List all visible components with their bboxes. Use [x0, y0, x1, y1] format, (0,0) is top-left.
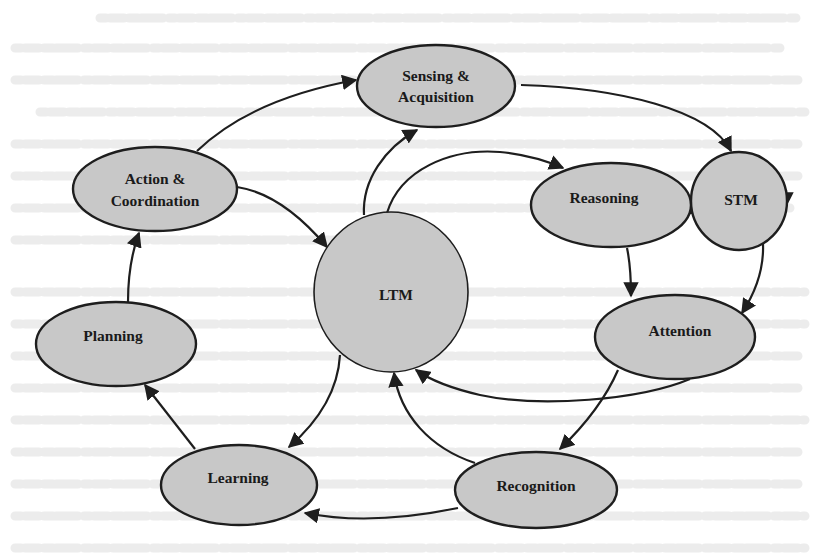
node-label: Action & [125, 170, 186, 187]
node-label: Learning [207, 469, 268, 486]
edge-attention-to-recognition [560, 370, 618, 449]
node-recognition: Recognition [455, 452, 617, 528]
node-label: Coordination [111, 192, 200, 209]
node-label: Sensing & [402, 67, 470, 84]
cognitive-process-diagram: Sensing & Acquisition Action & Coordinat… [0, 0, 827, 557]
node-sensing-acquisition: Sensing & Acquisition [357, 45, 515, 127]
node-label: Acquisition [398, 88, 474, 105]
node-label: Attention [649, 322, 712, 339]
node-action-coordination: Action & Coordination [73, 147, 237, 231]
node-label: LTM [379, 286, 413, 303]
node-planning: Planning [36, 302, 196, 386]
node-stm: STM [691, 152, 787, 250]
node-reasoning: Reasoning [531, 163, 691, 247]
node-learning: Learning [161, 445, 317, 525]
node-attention: Attention [595, 295, 755, 379]
edge-stm-to-attention [742, 244, 763, 313]
node-label: Recognition [496, 477, 576, 494]
node-label: Reasoning [570, 189, 639, 206]
node-label: STM [724, 191, 758, 208]
node-ltm: LTM [314, 212, 468, 372]
node-label: Planning [83, 327, 143, 344]
edge-ltm-to-learning [289, 355, 340, 447]
